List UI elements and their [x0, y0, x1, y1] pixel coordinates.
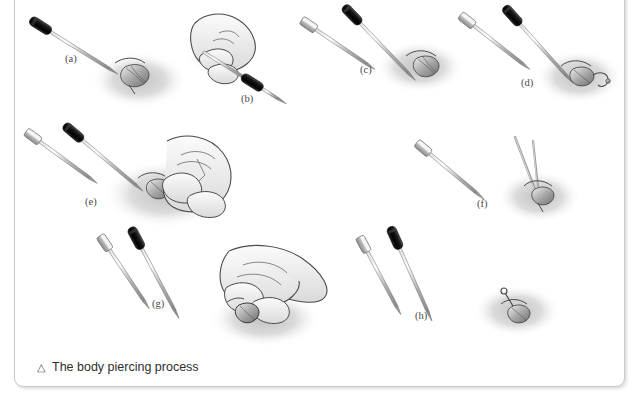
panel-label-e: (e): [85, 196, 97, 207]
panel-d-art: [458, 3, 623, 104]
panel-c-art: [299, 3, 464, 93]
panel-e-art: [23, 121, 231, 228]
panel-label-h: (h): [415, 310, 427, 321]
triangle-icon: △: [37, 362, 45, 373]
panel-b-art: [185, 14, 289, 108]
piercing-process-illustration: [15, 0, 624, 386]
panel-g-art: [96, 225, 183, 320]
figure-frame: (a) (b) (c) (d) (e) (f) (g) (h) △ The bo…: [14, 0, 625, 387]
panel-label-a: (a): [65, 53, 77, 64]
panel-a-art: [28, 15, 187, 108]
figure-canvas: (a) (b) (c) (d) (e) (f) (g) (h) △ The bo…: [15, 0, 624, 386]
panel-h-art: [355, 225, 561, 337]
hand-illustration-bottom-art: [209, 245, 327, 347]
figure-caption: △ The body piercing process: [37, 360, 199, 374]
panel-label-f: (f): [477, 198, 488, 209]
figure-caption-text: The body piercing process: [52, 360, 199, 374]
panel-label-g: (g): [152, 298, 164, 309]
panel-f-art: [414, 137, 581, 223]
panel-label-b: (b): [241, 93, 253, 104]
panel-label-d: (d): [521, 77, 533, 88]
panel-label-c: (c): [360, 64, 372, 75]
